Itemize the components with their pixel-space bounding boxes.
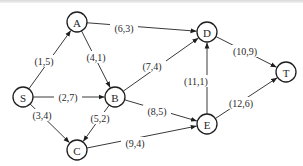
node-label: D [203, 27, 211, 39]
node-label: T [283, 67, 290, 79]
node-label: E [204, 119, 211, 131]
edge-label-b-c: (5,2) [90, 113, 109, 125]
edge-label-e-t: (12,6) [229, 98, 253, 110]
node-d: D [197, 22, 217, 42]
nodes-layer: SABCDET [13, 12, 296, 160]
edge-label-s-a: (1,5) [34, 56, 53, 68]
edge-label-b-e: (8,5) [147, 106, 166, 118]
node-c: C [67, 140, 87, 160]
node-b: B [105, 87, 125, 107]
network-diagram: (1,5)(2,7)(3,4)(6,3)(4,1)(7,4)(5,2)(8,5)… [0, 0, 303, 166]
edge-label-s-c: (3,4) [32, 110, 51, 122]
edge-label-a-d: (6,3) [114, 23, 133, 35]
node-s: S [13, 87, 33, 107]
node-label: C [73, 145, 80, 157]
edge-label-a-b: (4,1) [86, 52, 105, 64]
edge-label-b-d: (7,4) [142, 61, 161, 73]
node-a: A [67, 12, 87, 32]
edge-label-c-e: (9,4) [125, 138, 144, 150]
edge-a-d-arrow [87, 23, 197, 31]
node-label: A [73, 17, 81, 29]
edge-label-s-b: (2,7) [58, 92, 77, 104]
edge-label-d-t: (10,9) [233, 46, 257, 58]
node-t: T [276, 62, 296, 82]
node-label: S [20, 92, 26, 104]
edges-layer [29, 23, 277, 148]
node-e: E [197, 114, 217, 134]
node-label: B [111, 92, 118, 104]
edge-label-e-d: (11,1) [184, 76, 208, 88]
